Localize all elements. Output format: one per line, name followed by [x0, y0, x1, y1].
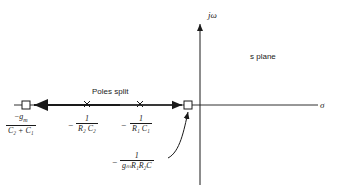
pole-square-left — [22, 101, 30, 109]
pointer-arrow — [168, 112, 188, 158]
label-1-over-r2c2: 1 R₂ C₂ — [76, 114, 98, 133]
s-plane-diagram — [0, 0, 339, 189]
pole-square-right — [184, 101, 192, 109]
label-gm-over-c2-c1: −gm C₂ + C₁ — [6, 112, 36, 135]
pole-x-r1c1 — [137, 101, 143, 107]
sigma-label: σ — [320, 100, 324, 110]
minus-sign: − — [68, 120, 73, 130]
jw-label: jω — [208, 10, 217, 20]
s-plane-label: s plane — [250, 52, 276, 61]
label-1-over-r1c1: 1 R₁ C₁ — [130, 114, 152, 133]
poles-split-label: Poles split — [92, 87, 128, 96]
label-1-over-gm-r1-r2-c: 1 gₘR₁R₂C — [120, 151, 154, 170]
minus-sign: − — [121, 120, 126, 130]
minus-sign: − — [112, 157, 117, 167]
